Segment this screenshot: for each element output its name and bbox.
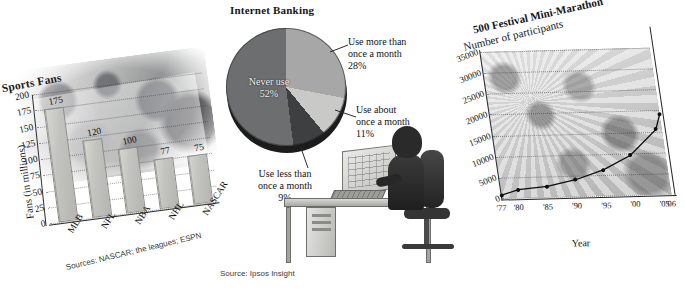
chair-post — [424, 219, 429, 245]
figure-page: Sports Fans Fans (in millions) 200175150… — [0, 0, 685, 298]
mini-marathon-series-line — [433, 0, 685, 292]
sports-fans-y-tick: 50 — [31, 186, 42, 198]
person-head — [392, 126, 422, 158]
pie-label-use-more-pct: 28% — [348, 60, 366, 71]
sports-fans-y-tick: 25 — [33, 202, 44, 214]
pie-label-use-more-l2: once a month — [348, 48, 402, 59]
internet-banking-source: Source: Ipsos Insight — [220, 269, 295, 278]
sports-fans-bar: 100 — [118, 146, 146, 213]
sports-fans-bar: 175 — [44, 107, 79, 222]
chair-base — [402, 244, 454, 249]
person-at-computer-illustration — [284, 120, 466, 270]
mini-marathon-x-axis-label: Year — [571, 237, 590, 248]
sports-fans-bar-value: 120 — [80, 125, 107, 140]
sports-fans-plot-area: 1751201007775 — [33, 73, 219, 224]
sports-fans-source: Sources: NASCAR; the leagues; ESPN — [65, 231, 202, 272]
mini-marathon-chart: 500 Festival Mini-Marathon Number of par… — [452, 0, 685, 276]
sports-fans-bar-value: 77 — [151, 143, 178, 158]
internet-banking-chart: Internet Banking Never use 52% Use more … — [196, 0, 466, 298]
desk-leg-left — [286, 207, 291, 263]
pie-label-use-more-l1: Use more than — [348, 36, 406, 47]
pie-label-use-more: Use more than once a month 28% — [348, 36, 406, 72]
pie-label-use-about-l1: Use about — [356, 104, 396, 115]
computer-tower-icon — [306, 207, 336, 257]
mini-marathon-data-point — [499, 193, 504, 198]
